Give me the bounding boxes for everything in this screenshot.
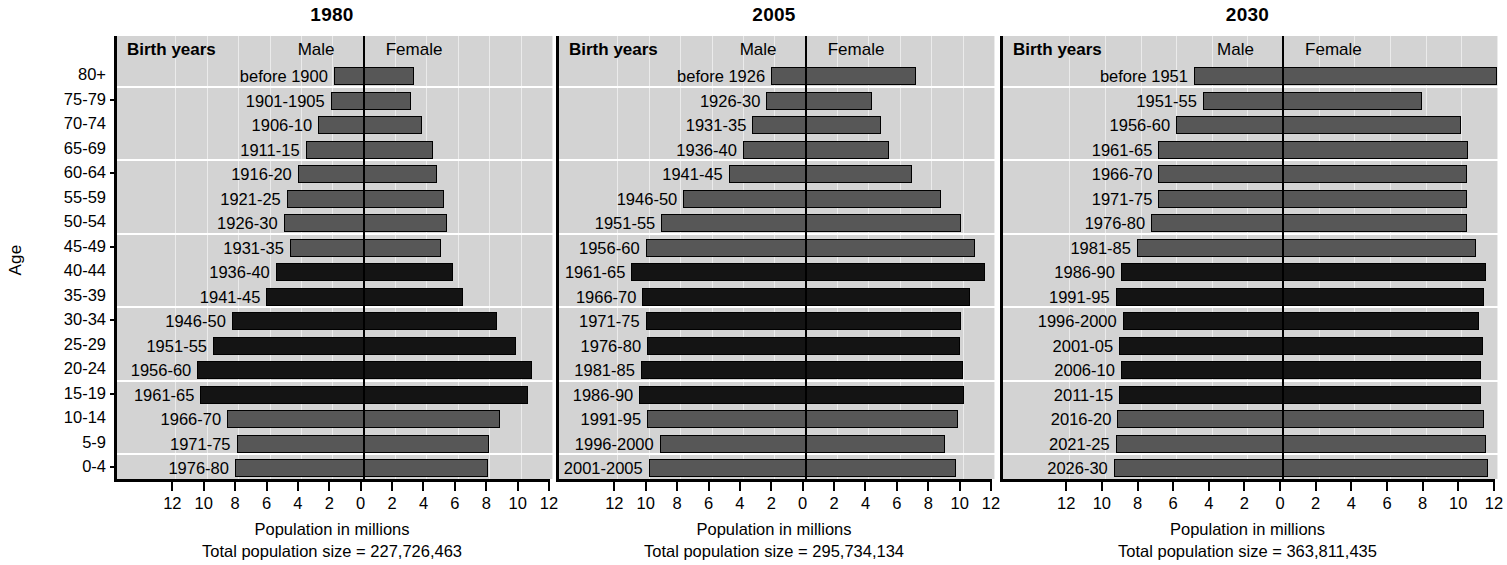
male-bar — [1158, 141, 1283, 159]
female-bar — [1283, 190, 1467, 208]
x-axis-tick-label: 12 — [531, 494, 567, 513]
x-axis-tick-label: 12 — [973, 494, 1009, 513]
birth-year-label: 1936-40 — [117, 263, 270, 281]
panel-2005: 2005Birth yearsMaleFemalebefore 19261926… — [556, 36, 992, 479]
male-bar — [237, 435, 364, 453]
pyramid-row: 1941-45 — [559, 162, 995, 187]
birth-year-label: 2026-30 — [1003, 459, 1108, 477]
header-female: Female — [1305, 40, 1362, 60]
zero-axis-line — [363, 36, 365, 479]
female-bar — [364, 165, 438, 183]
pyramid-row: 1956-60 — [559, 236, 995, 261]
pyramid-row: 2006-10 — [1003, 358, 1498, 383]
birth-year-label: 1961-65 — [559, 263, 625, 281]
pyramid-row: 1966-70 — [1003, 162, 1498, 187]
female-bar — [364, 214, 447, 232]
pyramid-row: 1941-45 — [117, 285, 553, 310]
male-bar — [1137, 239, 1283, 257]
age-label: 80+ — [14, 66, 106, 83]
birth-year-label: 1946-50 — [559, 190, 677, 208]
age-label: 75-79 — [14, 91, 106, 108]
header-female: Female — [828, 40, 885, 60]
pyramid-row: 1961-65 — [1003, 138, 1498, 163]
pyramid-row: 1951-55 — [559, 211, 995, 236]
pyramid-row: 1956-60 — [117, 358, 553, 383]
age-label: 60-64 — [14, 164, 106, 181]
x-axis-tick-label: 4 — [1191, 494, 1227, 513]
panel-year-title: 2030 — [1000, 4, 1495, 26]
male-bar — [290, 239, 364, 257]
pyramid-row: 2001-2005 — [559, 456, 995, 479]
pyramid-row: 1971-75 — [117, 432, 553, 457]
male-bar — [729, 165, 806, 183]
male-bar — [1194, 67, 1283, 85]
male-bar — [641, 361, 806, 379]
pyramid-row: 1981-85 — [1003, 236, 1498, 261]
x-axis-tick-label: 12 — [1476, 494, 1507, 513]
female-bar — [364, 92, 411, 110]
female-bar — [1283, 92, 1422, 110]
x-axis-tick-label: 10 — [1440, 494, 1476, 513]
plot-area: Birth yearsMaleFemalebefore 19511951-551… — [1000, 36, 1498, 479]
total-population-label: Total population size = 227,726,463 — [114, 542, 550, 561]
x-axis-tick-label: 10 — [1084, 494, 1120, 513]
male-bar — [298, 165, 364, 183]
female-bar — [364, 435, 490, 453]
male-bar — [235, 459, 364, 477]
x-axis-tick — [802, 482, 804, 491]
birth-year-label: 1966-70 — [559, 288, 636, 306]
birth-year-label: 2006-10 — [1003, 361, 1115, 379]
x-axis-label: Population in millions — [114, 520, 550, 539]
male-bar — [660, 435, 806, 453]
total-population-label: Total population size = 295,734,134 — [556, 542, 992, 561]
x-axis-label: Population in millions — [1000, 520, 1495, 539]
panel-year-title: 2005 — [556, 4, 992, 26]
birth-year-label: 1946-50 — [117, 312, 226, 330]
female-bar — [806, 288, 971, 306]
pyramid-row: 1946-50 — [117, 309, 553, 334]
female-bar — [806, 141, 889, 159]
x-axis-tick — [1386, 482, 1388, 491]
x-axis-tick — [297, 482, 299, 491]
x-axis-tick — [959, 482, 961, 491]
birth-year-label: 1981-85 — [559, 361, 635, 379]
pyramid-row: 2026-30 — [1003, 456, 1498, 479]
male-bar — [266, 288, 363, 306]
birth-year-label: 1931-35 — [117, 239, 284, 257]
female-bar — [364, 410, 501, 428]
x-axis-tick — [739, 482, 741, 491]
male-bar — [649, 459, 806, 477]
birth-year-label: 1921-25 — [117, 190, 281, 208]
male-bar — [771, 67, 806, 85]
birth-year-label: 1941-45 — [559, 165, 723, 183]
female-bar — [1283, 410, 1484, 428]
female-bar — [364, 361, 532, 379]
female-bar — [806, 116, 881, 134]
x-axis-tick — [1065, 482, 1067, 491]
birth-year-label: 1991-95 — [559, 410, 641, 428]
x-axis-tick — [676, 482, 678, 491]
x-axis-tick — [1137, 482, 1139, 491]
male-bar — [227, 410, 364, 428]
x-axis-tick — [990, 482, 992, 491]
male-bar — [318, 116, 364, 134]
male-bar — [661, 214, 805, 232]
female-bar — [1283, 165, 1467, 183]
female-bar — [806, 92, 872, 110]
x-axis-tick — [422, 482, 424, 491]
pyramid-row: 2011-15 — [1003, 383, 1498, 408]
x-axis-tick — [770, 482, 772, 491]
birth-year-label: 1991-95 — [1003, 288, 1110, 306]
female-bar — [1283, 214, 1467, 232]
pyramid-row: 1916-20 — [117, 162, 553, 187]
birth-year-label: 1966-70 — [117, 410, 221, 428]
pyramid-row: 1936-40 — [559, 138, 995, 163]
male-bar — [213, 337, 364, 355]
header-birth-years: Birth years — [1013, 40, 1102, 60]
male-bar — [766, 92, 805, 110]
age-label: 45-49 — [14, 238, 106, 255]
birth-year-label: 1931-35 — [559, 116, 746, 134]
male-bar — [1121, 361, 1283, 379]
pyramid-row: 1961-65 — [117, 383, 553, 408]
